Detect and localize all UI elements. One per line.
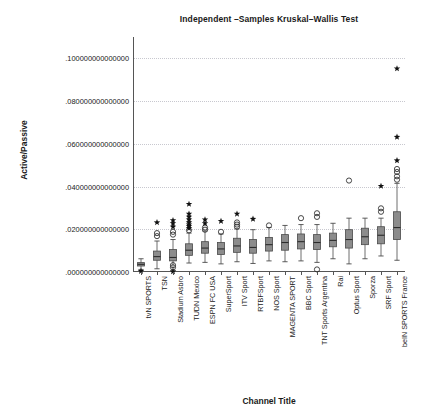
y-axis-tick-label: .080000000000000 — [24, 97, 129, 106]
x-axis-tick-label: SRF Sport — [384, 276, 393, 310]
x-axis-tick-label: RTBFSport — [256, 276, 265, 312]
x-axis-tick-label: TSN — [160, 276, 169, 290]
plot-frame — [133, 37, 405, 272]
x-axis-tick-mark — [365, 272, 366, 275]
x-axis-tick-mark — [381, 272, 382, 275]
y-axis-tick-label: .000000000000000 — [24, 268, 129, 277]
x-axis-tick-label: Rai — [336, 276, 345, 287]
x-axis-tick-label: Optus Sport — [352, 276, 361, 314]
x-axis-tick-label: MAGENTA SPORT — [288, 276, 297, 337]
y-axis-tick-label: .020000000000000 — [24, 225, 129, 234]
x-axis-tick-mark — [205, 272, 206, 275]
x-axis-tick-mark — [269, 272, 270, 275]
x-axis-tick-mark — [173, 272, 174, 275]
x-axis-tick-label: tvN SPORTS — [144, 276, 153, 318]
y-axis-tick-label: .100000000000000 — [24, 54, 129, 63]
x-axis-tick-mark — [397, 272, 398, 275]
x-axis-tick-mark — [333, 272, 334, 275]
x-axis-tick-mark — [253, 272, 254, 275]
x-axis-tick-mark — [317, 272, 318, 275]
x-axis-tick-label: SuperSport — [224, 276, 233, 312]
x-axis-tick-label: TNT Sports Argentina — [320, 276, 329, 345]
x-axis-tick-mark — [141, 272, 142, 275]
x-axis-tick-mark — [237, 272, 238, 275]
x-axis-tick-mark — [301, 272, 302, 275]
y-axis-tick-label: .040000000000000 — [24, 182, 129, 191]
x-axis-tick-label: Stadium Asbro — [176, 276, 185, 323]
x-axis-tick-label: NOS Sport — [272, 276, 281, 311]
x-axis-tick-label: BBC Sport — [304, 276, 313, 310]
x-axis-tick-label: beIN SPORTS France — [400, 276, 409, 347]
x-axis-tick-label: TUDN Mexico — [192, 276, 201, 321]
x-axis-tick-mark — [221, 272, 222, 275]
x-axis-tick-label: Sporza — [368, 276, 377, 299]
x-axis-tick-mark — [285, 272, 286, 275]
x-axis-title: Channel Title — [133, 396, 405, 406]
x-axis-tick-mark — [189, 272, 190, 275]
kruskal-wallis-boxplot-chart: Independent –Samples Kruskal–Wallis Test… — [0, 0, 426, 417]
x-axis-tick-mark — [157, 272, 158, 275]
x-axis-tick-mark — [349, 272, 350, 275]
y-axis-tick-label: .060000000000000 — [24, 139, 129, 148]
x-axis-tick-label: ITV Sport — [240, 276, 249, 306]
x-axis-tick-label: ESPN FC USA — [208, 276, 217, 324]
chart-title: Independent –Samples Kruskal–Wallis Test — [133, 14, 405, 24]
